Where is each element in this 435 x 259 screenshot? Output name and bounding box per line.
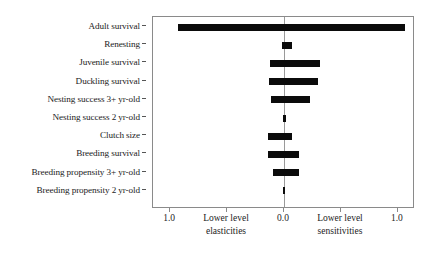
x-axis-group-captions: Lower levelelasticitiesLower levelsensit… <box>0 212 435 252</box>
y-axis-tick-mark <box>142 61 146 62</box>
plot-area <box>152 16 414 208</box>
bar <box>270 60 320 67</box>
y-axis-label-row: Juvenile survival <box>79 55 146 69</box>
y-axis-label-row: Renesting <box>104 37 146 51</box>
bar <box>283 115 286 122</box>
bar <box>178 24 405 31</box>
x-axis-group-caption-line2: elasticities <box>171 225 281 238</box>
bar <box>283 187 286 194</box>
bar <box>273 169 299 176</box>
y-axis-label: Nesting success 3+ yr-old <box>47 94 140 104</box>
y-axis-label: Breeding survival <box>76 148 140 158</box>
bar <box>271 96 310 103</box>
y-axis-label: Adult survival <box>89 21 140 31</box>
bar <box>268 151 299 158</box>
sensitivity-elasticity-chart: Adult survivalRenestingJuvenile survival… <box>0 0 435 259</box>
y-axis-tick-mark <box>142 134 146 135</box>
y-axis-tick-mark <box>142 152 146 153</box>
y-axis-tick-mark <box>142 98 146 99</box>
y-axis-label: Clutch size <box>100 130 140 140</box>
y-axis-label-row: Adult survival <box>89 19 146 33</box>
y-axis-tick-mark <box>142 189 146 190</box>
bar <box>268 133 292 140</box>
y-axis-label: Renesting <box>104 39 140 49</box>
bar <box>282 42 292 49</box>
y-axis-label-row: Duckling survival <box>76 74 146 88</box>
y-axis-label-row: Breeding propensity 3+ yr-old <box>32 165 147 179</box>
x-axis-group-caption: Lower levelelasticities <box>171 212 281 237</box>
y-axis-label: Nesting success 2 yr-old <box>53 112 141 122</box>
y-axis-label-row: Breeding survival <box>76 146 146 160</box>
y-axis-tick-mark <box>142 171 146 172</box>
x-axis-group-caption: Lower levelsensitivities <box>285 212 395 237</box>
bar <box>269 78 318 85</box>
y-axis-label-row: Breeding propensity 2 yr-old <box>37 183 146 197</box>
y-axis-label: Breeding propensity 2 yr-old <box>37 185 140 195</box>
y-axis-tick-mark <box>142 43 146 44</box>
x-axis-group-caption-line2: sensitivities <box>285 225 395 238</box>
y-axis-label-row: Nesting success 2 yr-old <box>53 110 147 124</box>
y-axis-tick-mark <box>142 80 146 81</box>
y-axis-label: Juvenile survival <box>79 57 140 67</box>
x-axis-group-caption-line1: Lower level <box>171 212 281 225</box>
y-axis-label: Duckling survival <box>76 76 140 86</box>
y-axis-label-row: Clutch size <box>100 128 146 142</box>
y-axis-tick-mark <box>142 25 146 26</box>
y-axis-label: Breeding propensity 3+ yr-old <box>32 167 141 177</box>
y-axis-category-labels: Adult survivalRenestingJuvenile survival… <box>0 16 146 204</box>
x-axis-group-caption-line1: Lower level <box>285 212 395 225</box>
y-axis-label-row: Nesting success 3+ yr-old <box>47 92 146 106</box>
y-axis-tick-mark <box>142 116 146 117</box>
